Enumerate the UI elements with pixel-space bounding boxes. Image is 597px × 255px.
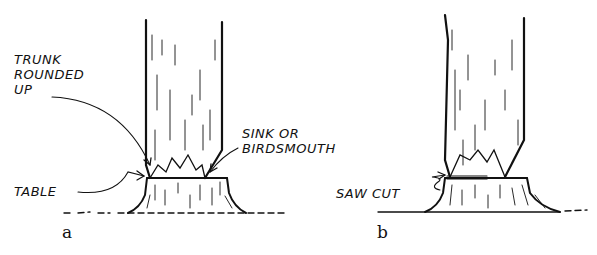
- label-sink-or-birdsmouth: SINK OR BIRDSMOUTH: [242, 126, 336, 156]
- figure-b-caption: b: [377, 222, 388, 242]
- label-table: TABLE: [14, 184, 57, 199]
- figure-a-caption: a: [62, 222, 72, 242]
- figure-b-drawing: [378, 15, 587, 212]
- figure-a-drawing: [52, 20, 286, 213]
- label-trunk-rounded-up: TRUNK ROUNDED UP: [14, 52, 84, 97]
- label-saw-cut: SAW CUT: [336, 186, 400, 201]
